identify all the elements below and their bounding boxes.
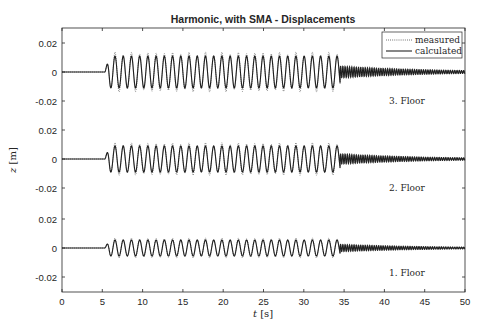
x-tick-label: 40 [379,296,390,307]
y-tick-label: -0.02 [35,272,57,283]
y-tick-label: -0.02 [35,183,57,194]
y-tick-label: 0.02 [39,125,58,136]
y-tick-label: -0.02 [35,96,57,107]
floor-2-label: 2. Floor [389,183,425,193]
x-tick-label: 25 [258,296,269,307]
x-tick-label: 45 [419,296,430,307]
x-tick-label: 30 [299,296,310,307]
x-tick-label: 5 [100,296,105,307]
y-axis-label: z [m] [7,147,18,174]
y-tick-label: 0.02 [39,214,58,225]
x-tick-label: 50 [460,296,471,307]
x-tick-label: 20 [218,296,229,307]
floor-1-label: 1. Floor [389,268,425,278]
y-tick-label: 0 [52,154,57,165]
x-tick-label: 10 [137,296,148,307]
legend: measured calculated [382,32,462,58]
y-tick-label: 0 [52,243,57,254]
legend-measured-label: measured [415,35,460,45]
x-tick-label: 0 [59,296,64,307]
x-tick-label: 15 [178,296,189,307]
x-axis-label: t [s] [253,308,273,319]
y-tick-label: 0.02 [39,38,58,49]
chart-title: Harmonic, with SMA - Displacements [171,13,356,25]
floor-3-label: 3. Floor [389,96,425,106]
y-tick-label: 0 [52,67,57,78]
x-tick-label: 35 [339,296,350,307]
chart-figure: Harmonic, with SMA - Displacements 05101… [0,0,492,333]
legend-calculated-label: calculated [415,46,462,56]
